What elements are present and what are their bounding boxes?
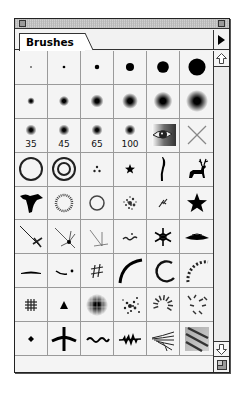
brush-swatch-radial-dashes[interactable] [147,288,180,322]
brush-swatch-arc[interactable] [114,254,147,288]
splatter-brush-icon [117,190,143,216]
brush-swatch-triangle[interactable] [48,288,81,322]
brush-swatch-soft-grid[interactable] [81,288,114,322]
brush-swatch-soft[interactable] [147,85,180,119]
dash-dot-brush-icon [51,258,77,284]
brush-swatch-soft[interactable]: 65 [81,119,114,153]
brush-swatch-deer[interactable] [180,153,213,187]
tab-slant-edge [81,33,93,50]
brush-swatch-dot-scatter[interactable] [114,288,147,322]
brush-swatch-open-circle[interactable] [147,254,180,288]
cross-brush-icon [184,122,210,148]
brushes-palette-window: Brushes 354565100 [14,18,230,373]
brush-swatch-soft[interactable]: 35 [15,119,48,153]
brush-swatch-star[interactable] [180,187,213,221]
crossed-streak-brush-icon [18,224,44,250]
soft-grid-brush-icon [84,292,110,318]
scribble-brush-icon [150,190,176,216]
arc-brush-icon [117,258,143,284]
textured-stripes-brush-icon [184,326,210,352]
brush-swatch-hard[interactable] [180,51,213,85]
palette-footer [15,356,229,372]
brush-swatch-textured-stripes[interactable] [180,322,213,356]
brush-swatch-soft[interactable]: 45 [48,119,81,153]
brush-swatch-tree-branch[interactable] [48,322,81,356]
brush-swatch-dotted-ring[interactable] [48,187,81,221]
brush-swatch-hard[interactable] [114,51,147,85]
eye-brush-icon [150,122,176,148]
brush-swatch-soft[interactable] [114,85,147,119]
brush-swatch-hard[interactable] [81,51,114,85]
brush-swatch-ring[interactable] [15,153,48,187]
brush-swatch-crossed-streak[interactable] [15,220,48,254]
brush-swatch-grass-lines[interactable] [147,322,180,356]
brush-swatch-leaf-spray[interactable] [114,322,147,356]
brush-swatch-bird-silhouette[interactable] [15,187,48,221]
brush-swatch-scribble[interactable] [147,187,180,221]
scroll-down-button[interactable] [214,341,229,357]
deer-brush-icon [184,156,210,182]
collapse-box[interactable] [218,20,225,27]
brush-swatch-soft[interactable] [180,85,213,119]
brush-size-label: 65 [91,140,102,149]
brush-swatch-dashed-arc[interactable] [180,254,213,288]
brush-swatch-lens-shape[interactable] [180,220,213,254]
soft-brush-icon [117,88,143,114]
brush-swatch-hash[interactable] [81,254,114,288]
lens-shape-brush-icon [184,224,210,250]
brush-swatch-hard[interactable] [147,51,180,85]
vertical-scrollbar[interactable] [213,51,229,357]
brush-size-label: 35 [25,140,36,149]
brush-swatch-hard[interactable] [15,51,48,85]
title-bar[interactable] [15,19,229,29]
soft-brush-icon [150,88,176,114]
grow-box-icon [217,360,227,370]
brush-swatch-three-dots[interactable] [81,153,114,187]
brush-swatch-leaf-scatter[interactable] [180,288,213,322]
brush-swatch-hard[interactable] [48,51,81,85]
soft-brush-icon [51,121,77,139]
tab-brushes[interactable]: Brushes [19,33,85,51]
dot-scatter-brush-icon [117,292,143,318]
brush-swatch-soft[interactable]: 100 [114,119,147,153]
soft-brush-icon [117,121,143,139]
arrow-up-icon [216,53,227,64]
brush-swatch-cross[interactable] [180,119,213,153]
squiggle-brush-icon [117,224,143,250]
brush-swatch-diamond[interactable] [15,322,48,356]
brush-swatch-snowflake[interactable] [147,220,180,254]
brush-swatch-double-ring[interactable] [48,153,81,187]
tree-branch-brush-icon [51,326,77,352]
brush-swatch-wave[interactable] [81,322,114,356]
brush-swatch-dash[interactable] [15,254,48,288]
close-box[interactable] [19,20,26,27]
starburst-brush-icon [51,224,77,250]
hard-brush-icon [184,54,210,80]
brush-swatch-soft[interactable] [81,85,114,119]
triangle-brush-icon [51,292,77,318]
hard-brush-icon [18,54,44,80]
scroll-up-button[interactable] [214,51,229,67]
brush-swatch-grid-blot[interactable] [15,288,48,322]
brush-swatch-squiggle[interactable] [114,220,147,254]
hard-brush-icon [51,54,77,80]
brush-swatch-thin-ring[interactable] [81,187,114,221]
brush-swatch-starburst[interactable] [48,220,81,254]
snowflake-brush-icon [150,224,176,250]
brush-size-label: 100 [121,140,138,149]
brush-swatch-sparkle-streak[interactable] [81,220,114,254]
brush-swatch-eye[interactable] [147,119,180,153]
soft-brush-icon [184,88,210,114]
brush-swatch-small-star[interactable] [114,153,147,187]
brush-swatch-calligraphic-stroke[interactable] [147,153,180,187]
brush-grid: 354565100 [15,51,214,357]
brush-swatch-soft[interactable] [48,85,81,119]
brush-swatch-dash-dot[interactable] [48,254,81,288]
hard-brush-icon [150,54,176,80]
hash-brush-icon [84,258,110,284]
soft-brush-icon [18,121,44,139]
brush-swatch-soft[interactable] [15,85,48,119]
resize-grow-box[interactable] [213,356,229,372]
palette-menu-button[interactable] [213,30,229,50]
brush-swatch-splatter[interactable] [114,187,147,221]
